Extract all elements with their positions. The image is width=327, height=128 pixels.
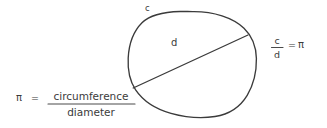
circumference-label: c <box>145 3 150 13</box>
diameter-line <box>133 35 248 88</box>
bottom-formula-equals: = <box>31 92 39 103</box>
diameter-label: d <box>171 37 177 48</box>
pi-diagram-canvas: c d c d = π π = circumference diameter <box>0 0 327 128</box>
diagram-svg: c d c d = π π = circumference diameter <box>0 0 327 128</box>
bottom-formula-pi: π <box>16 92 22 103</box>
bottom-formula-numerator: circumference <box>53 90 128 102</box>
right-formula-numerator: c <box>274 35 279 46</box>
right-formula-equals: = <box>288 39 296 50</box>
right-formula-pi: π <box>298 39 304 50</box>
circle-outline <box>128 11 256 117</box>
bottom-formula-denominator: diameter <box>67 106 115 118</box>
right-formula-denominator: d <box>274 49 280 60</box>
